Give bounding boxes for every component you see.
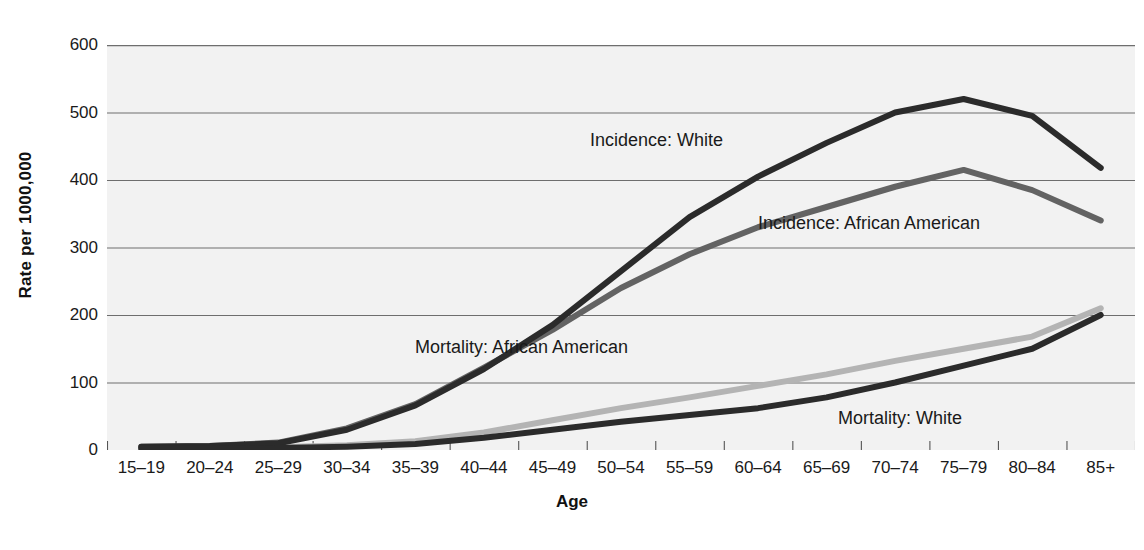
y-tick-label: 600 — [52, 35, 98, 55]
x-tick-label: 45–49 — [529, 458, 576, 478]
series-line — [141, 99, 1100, 447]
series-label: Incidence: African American — [758, 213, 980, 234]
y-axis-title: Rate per 1000,000 — [6, 0, 46, 450]
x-tick-label: 40–44 — [460, 458, 507, 478]
y-tick-label: 500 — [52, 103, 98, 123]
y-axis-tick-labels: 0100200300400500600 — [48, 0, 98, 550]
x-tick-label: 70–74 — [871, 458, 918, 478]
x-tick-label: 85+ — [1086, 458, 1115, 478]
series-label: Mortality: African American — [415, 337, 628, 358]
x-tick-label: 55–59 — [666, 458, 713, 478]
x-tick-label: 80–84 — [1009, 458, 1056, 478]
x-tick-label: 50–54 — [597, 458, 644, 478]
x-tick-label: 25–29 — [255, 458, 302, 478]
x-axis-tick-labels: 15–1920–2425–2930–3435–3940–4445–4950–54… — [107, 458, 1135, 488]
y-tick-label: 400 — [52, 170, 98, 190]
y-tick-label: 200 — [52, 305, 98, 325]
chart-page: Rate per 1000,000 0100200300400500600 In… — [0, 0, 1144, 550]
x-tick-label: 60–64 — [734, 458, 781, 478]
gridlines — [107, 46, 1135, 384]
series-lines — [141, 99, 1100, 449]
x-axis-title-text: Age — [556, 492, 588, 511]
series-label: Mortality: White — [838, 408, 962, 429]
y-axis-title-text: Rate per 1000,000 — [16, 151, 36, 298]
x-tick-label: 15–19 — [118, 458, 165, 478]
y-tick-label: 0 — [52, 440, 98, 460]
series-label: Incidence: White — [590, 130, 723, 151]
y-tick-label: 100 — [52, 373, 98, 393]
x-tick-label: 30–34 — [323, 458, 370, 478]
chart-svg — [107, 45, 1135, 450]
x-tick-label: 65–69 — [803, 458, 850, 478]
y-tick-label: 300 — [52, 238, 98, 258]
x-tick-label: 75–79 — [940, 458, 987, 478]
plot-area — [107, 45, 1135, 450]
x-axis-title: Age — [0, 492, 1144, 512]
x-tick-label: 35–39 — [392, 458, 439, 478]
x-tick-label: 20–24 — [186, 458, 233, 478]
